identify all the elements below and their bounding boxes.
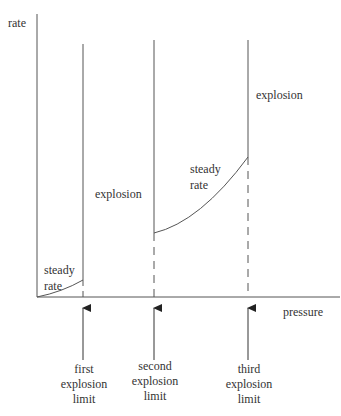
third-explosion-limit-label: third explosion limit [226, 362, 273, 407]
third-limit-line-3: limit [238, 392, 261, 407]
first-limit-line-2: explosion [61, 377, 108, 392]
first-explosion-label: explosion [95, 187, 142, 201]
mid-rate-word: rate [190, 177, 208, 193]
second-limit-line-1: second [138, 359, 171, 374]
x-axis-label: pressure [283, 305, 323, 319]
first-limit-line-1: first [74, 362, 93, 377]
explosion-limits-diagram [0, 0, 341, 416]
third-limit-line-2: explosion [226, 377, 273, 392]
mid-steady-rate-label: steady rate [190, 161, 221, 193]
first-explosion-limit-label: first explosion limit [61, 362, 108, 407]
first-limit-line-3: limit [73, 392, 96, 407]
third-limit-line-1: third [238, 362, 261, 377]
third-explosion-label: explosion [256, 88, 303, 102]
second-limit-line-2: explosion [132, 374, 179, 389]
second-explosion-limit-label: second explosion limit [132, 359, 179, 404]
y-axis-label: rate [8, 16, 26, 30]
low-steady-rate-label: steady rate [44, 262, 75, 294]
second-limit-line-3: limit [144, 389, 167, 404]
mid-steady-word: steady [190, 161, 221, 177]
low-rate-word: rate [44, 278, 62, 294]
low-steady-word: steady [44, 262, 75, 278]
